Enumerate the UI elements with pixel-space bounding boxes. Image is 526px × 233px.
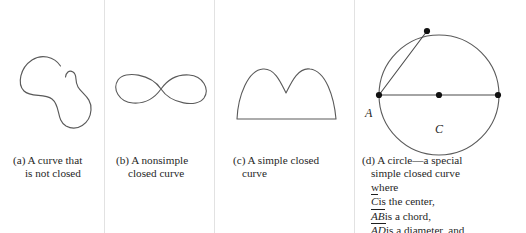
caption-d-line-1: (d) A circle—a special [362,154,526,167]
point-c-dot [436,92,442,98]
caption-c-line-2: curve [233,167,373,180]
panel-a: (a) A curve that is not closed [0,0,105,233]
two-humped-arch-curve-svg [234,58,342,126]
point-a-label: A [365,106,372,121]
point-d-dot [495,92,501,98]
caption-d-line-3: where [362,181,526,194]
caption-d-def-chord: ABis a chord, [362,209,526,223]
term-center-rest: is the center, [378,195,434,207]
caption-b-line-1: (b) A nonsimple [116,154,226,167]
caption-c: (c) A simple closed curve [215,154,373,181]
panel-b: (b) A nonsimple closed curve [105,0,215,233]
caption-a-line-1: (a) A curve that [13,154,118,167]
circle-diagram-drawing: A C [355,20,523,156]
caption-b-line-2: closed curve [116,167,226,180]
panel-c: (c) A simple closed curve [215,0,355,233]
figure-eight-curve-svg [113,66,209,112]
open-blob-curve-drawing [14,44,106,144]
panel-d: A C (d) A circle—a special simple closed… [355,0,526,233]
point-c-label: C [435,122,443,137]
caption-d-def-diameter: ADis a diameter, and [362,223,526,233]
chord-segment-ab [379,31,427,95]
caption-b: (b) A nonsimple closed curve [105,154,226,181]
figure-board: (a) A curve that is not closed (b) A non… [0,0,526,233]
term-diameter-rest: is a diameter, and [386,224,464,233]
caption-d-def-center: Cis the center, [362,194,526,208]
caption-d: (d) A circle—a special simple closed cur… [355,154,526,233]
two-humped-arch-curve-drawing [234,58,342,126]
open-blob-curve-svg [14,44,106,144]
term-diameter: AD [371,223,386,233]
caption-a-line-2: is not closed [13,167,118,180]
point-a-dot [376,92,382,98]
term-chord-rest: is a chord, [385,210,431,222]
caption-c-line-1: (c) A simple closed [233,154,373,167]
point-b-dot [424,28,430,34]
figure-eight-curve-drawing [113,66,209,112]
caption-a: (a) A curve that is not closed [0,154,118,181]
caption-d-line-2: simple closed curve [362,167,526,180]
term-chord: AB [371,209,385,222]
